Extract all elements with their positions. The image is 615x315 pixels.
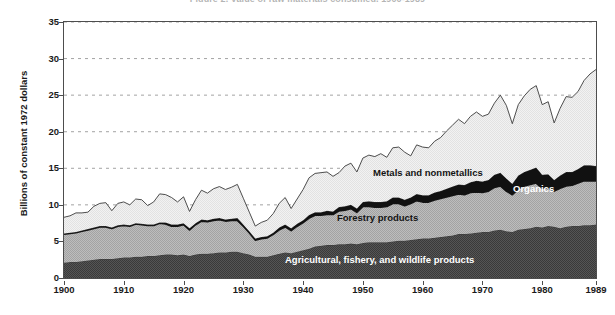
y-tick-label: 15: [25, 163, 59, 173]
y-tick-mark: [59, 278, 63, 279]
series-label-forestry-products: Forestry products: [337, 212, 418, 223]
x-tick-mark: [482, 281, 483, 285]
plot-inner: [64, 22, 596, 278]
x-tick-label: 1950: [341, 285, 385, 295]
y-tick-mark: [59, 132, 63, 133]
y-tick-label: 10: [25, 200, 59, 210]
y-tick-label: 20: [25, 127, 59, 137]
y-tick-mark: [59, 59, 63, 60]
x-tick-mark: [423, 281, 424, 285]
stacked-area-svg: [64, 22, 596, 278]
x-tick-label: 1930: [221, 285, 265, 295]
series-label-agricultural-products: Agricultural, fishery, and wildlife prod…: [285, 254, 474, 265]
series-label-organics: Organics: [513, 183, 554, 194]
x-tick-label: 1980: [520, 285, 564, 295]
x-tick-label: 1989: [574, 285, 615, 295]
y-tick-mark: [59, 168, 63, 169]
x-tick-label: 1910: [102, 285, 146, 295]
y-tick-mark: [59, 22, 63, 23]
y-tick-mark: [59, 95, 63, 96]
plot-area: [63, 21, 597, 279]
x-tick-label: 1920: [162, 285, 206, 295]
x-tick-label: 1900: [42, 285, 86, 295]
x-axis-ticks: 1900191019201930194019501960197019801989: [0, 281, 615, 311]
x-tick-mark: [124, 281, 125, 285]
y-tick-label: 35: [25, 17, 59, 27]
y-tick-label: 25: [25, 90, 59, 100]
series-label-metals-and-nonmetallics: Metals and nonmetallics: [373, 167, 483, 178]
y-tick-label: 5: [25, 236, 59, 246]
x-tick-mark: [243, 281, 244, 285]
x-tick-mark: [64, 281, 65, 285]
x-tick-mark: [542, 281, 543, 285]
x-tick-label: 1970: [460, 285, 504, 295]
x-tick-mark: [303, 281, 304, 285]
chart-title: Figure 2. Value of raw materials consume…: [0, 0, 615, 2]
x-tick-label: 1960: [401, 285, 445, 295]
chart-root: Figure 2. Value of raw materials consume…: [0, 0, 615, 315]
y-axis-ticks: 05101520253035: [21, 0, 59, 300]
x-tick-label: 1940: [281, 285, 325, 295]
y-tick-label: 30: [25, 54, 59, 64]
x-tick-mark: [363, 281, 364, 285]
x-tick-mark: [184, 281, 185, 285]
y-tick-mark: [59, 205, 63, 206]
y-tick-mark: [59, 241, 63, 242]
x-tick-mark: [596, 281, 597, 285]
